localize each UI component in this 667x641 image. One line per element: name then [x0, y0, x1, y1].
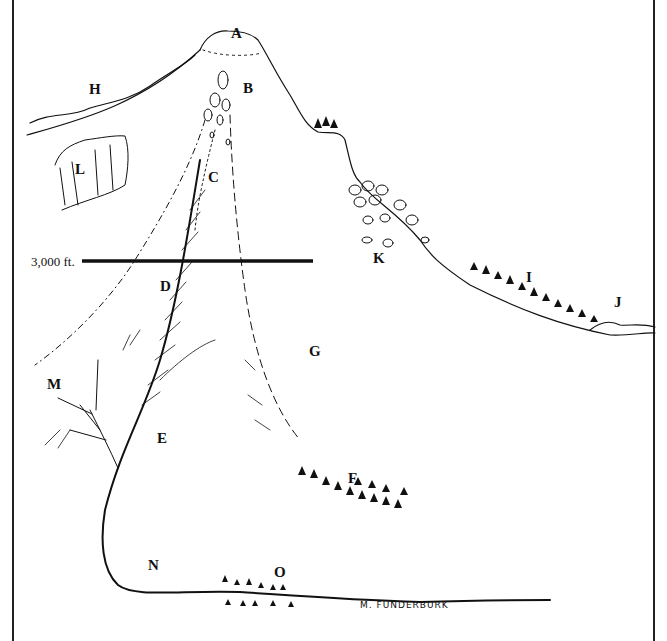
- tree-clusters: [222, 116, 598, 607]
- label-b: B: [243, 81, 253, 96]
- label-e: E: [157, 431, 167, 446]
- label-c: C: [208, 170, 219, 185]
- mountain-profile: [200, 31, 655, 335]
- label-n: N: [148, 558, 159, 573]
- label-i: I: [526, 270, 532, 285]
- label-f: F: [348, 471, 357, 486]
- label-o: O: [274, 565, 286, 580]
- elevation-label: 3,000 ft.: [31, 255, 75, 268]
- label-h: H: [89, 82, 101, 97]
- artist-signature: M. FUNDERBURK: [360, 600, 449, 610]
- label-k: K: [373, 251, 385, 266]
- label-l: L: [75, 162, 85, 177]
- cliff-l: [55, 136, 128, 210]
- gully: [103, 160, 550, 602]
- label-j: J: [614, 295, 622, 310]
- label-d: D: [160, 279, 171, 294]
- trees-knob: [314, 116, 338, 128]
- label-g: G: [309, 344, 321, 359]
- label-a: A: [231, 26, 242, 41]
- ridge-h: [27, 50, 200, 135]
- label-m: M: [47, 377, 61, 392]
